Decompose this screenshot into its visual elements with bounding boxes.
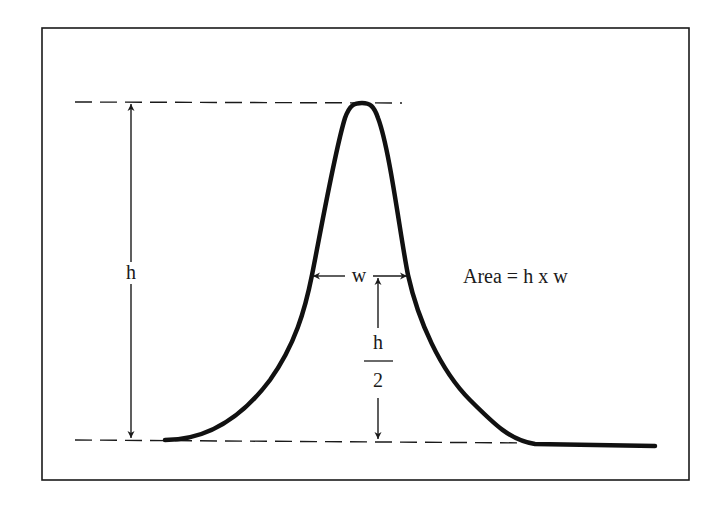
peak-curve (165, 103, 655, 446)
peak-diagram: h w h 2 Area = h x w (0, 0, 728, 509)
area-formula: Area = h x w (463, 265, 568, 287)
half-height-numerator: h (373, 331, 383, 353)
width-label: w (352, 264, 367, 286)
baseline-dashed-line (75, 440, 535, 443)
height-label: h (126, 261, 136, 283)
diagram-frame (42, 28, 689, 480)
half-height-denominator: 2 (373, 369, 383, 391)
